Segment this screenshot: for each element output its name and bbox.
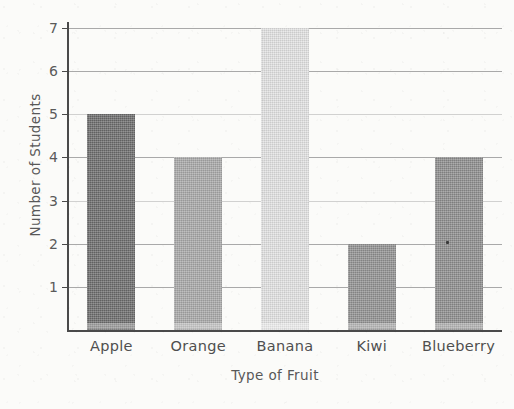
y-tick-mark: [62, 28, 69, 29]
y-tick-label: 2: [36, 236, 58, 252]
bar-kiwi[interactable]: [348, 244, 396, 330]
y-tick-mark: [62, 287, 69, 288]
y-tick-mark: [62, 244, 69, 245]
plot-area: [68, 28, 502, 330]
bar-apple[interactable]: [87, 114, 135, 330]
y-tick-mark: [62, 157, 69, 158]
x-tick-label-orange: Orange: [155, 338, 242, 354]
y-tick-label: 3: [36, 193, 58, 209]
y-tick-label: 5: [36, 106, 58, 122]
y-tick-mark: [62, 201, 69, 202]
bar-orange[interactable]: [174, 157, 222, 330]
y-tick-label: 6: [36, 63, 58, 79]
scan-artifact-speck: [446, 241, 449, 244]
y-tick-mark: [62, 114, 69, 115]
y-tick-mark: [62, 71, 69, 72]
y-tick-label: 7: [36, 20, 58, 36]
bar-banana[interactable]: [261, 28, 309, 330]
x-axis-title: Type of Fruit: [70, 367, 480, 383]
x-tick-label-apple: Apple: [68, 338, 155, 354]
y-axis-line: [67, 22, 69, 332]
x-tick-label-kiwi: Kiwi: [328, 338, 415, 354]
y-tick-label: 4: [36, 149, 58, 165]
x-tick-label-banana: Banana: [242, 338, 329, 354]
x-axis-line: [67, 330, 502, 332]
y-tick-label: 1: [36, 279, 58, 295]
bar-blueberry[interactable]: [435, 157, 483, 330]
bar-chart-figure: Number of Students 7654321 AppleOrangeBa…: [0, 0, 514, 409]
x-tick-label-blueberry: Blueberry: [415, 338, 502, 354]
